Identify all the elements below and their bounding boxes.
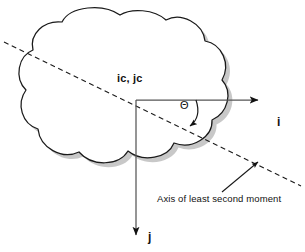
axis-caption-label: Axis of least second moment <box>157 194 281 204</box>
diagram-canvas: ic, jc i j Θ Axis of least second moment <box>0 0 305 252</box>
centroid-label: ic, jc <box>117 73 143 84</box>
diagram-vector-layer <box>0 0 305 252</box>
i-axis-label: i <box>277 116 280 128</box>
caption-leader-arrow <box>222 162 258 192</box>
j-axis-label: j <box>148 231 151 243</box>
cloud-blob-region <box>19 8 228 163</box>
theta-angle-label: Θ <box>180 100 189 111</box>
